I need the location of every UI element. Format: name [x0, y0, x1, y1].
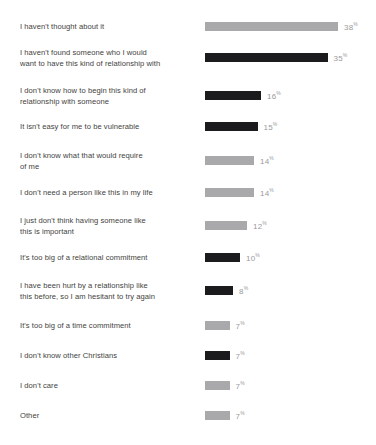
- bar-value-number: 12: [253, 222, 262, 231]
- bar-value-label: 16%: [267, 90, 281, 101]
- bar: [205, 22, 338, 31]
- bar-value-label: 7%: [236, 380, 245, 391]
- bar-track: 7%: [205, 373, 245, 399]
- bar-value-label: 14%: [260, 187, 274, 198]
- chart-bar-row: It's too big of a relational commitment1…: [0, 245, 376, 271]
- bar: [205, 351, 230, 360]
- bar: [205, 221, 247, 230]
- percent-sign: %: [343, 52, 348, 58]
- bar: [205, 156, 254, 165]
- chart-bar-row: I don't know what that would require of …: [0, 148, 376, 174]
- bar-value-label: 10%: [246, 252, 260, 263]
- bar-value-number: 10: [246, 254, 255, 263]
- bar-category-label: I haven't found someone who I would want…: [20, 46, 198, 68]
- bar-value-label: 38%: [344, 21, 358, 32]
- chart-bar-row: I just don't think having someone like t…: [0, 213, 376, 239]
- percent-sign: %: [273, 121, 278, 127]
- bar-category-label: It isn't easy for me to be vulnerable: [20, 121, 198, 132]
- bar-value-label: 14%: [260, 155, 274, 166]
- percent-sign: %: [240, 350, 245, 356]
- bar-track: 16%: [205, 83, 281, 109]
- bar-category-label: I don't care: [20, 380, 198, 391]
- chart-bar-row: It's too big of a time commitment7%: [0, 313, 376, 339]
- bar-value-label: 35%: [334, 52, 348, 63]
- bar: [205, 253, 240, 262]
- chart-bar-row: I don't know other Christians7%: [0, 343, 376, 369]
- bar-category-label: It's too big of a relational commitment: [20, 252, 198, 263]
- bar-category-label: I don't need a person like this in my li…: [20, 187, 198, 198]
- bar-chart: I haven't thought about it38%I haven't f…: [0, 0, 376, 445]
- bar-value-label: 7%: [236, 410, 245, 421]
- bar-value-label: 7%: [236, 350, 245, 361]
- bar-value-number: 14: [260, 157, 269, 166]
- bar-value-label: 8%: [239, 285, 248, 296]
- bar-value-label: 7%: [236, 320, 245, 331]
- bar: [205, 91, 261, 100]
- bar-category-label: I don't know how to begin this kind of r…: [20, 84, 198, 106]
- bar-category-label: I just don't think having someone like t…: [20, 214, 198, 236]
- chart-bar-row: Other7%: [0, 403, 376, 429]
- bar-track: 35%: [205, 45, 347, 71]
- percent-sign: %: [244, 285, 249, 291]
- percent-sign: %: [353, 21, 358, 27]
- chart-bar-row: I don't care7%: [0, 373, 376, 399]
- bar-track: 7%: [205, 313, 245, 339]
- percent-sign: %: [240, 320, 245, 326]
- bar-value-label: 12%: [253, 220, 267, 231]
- percent-sign: %: [276, 90, 281, 96]
- bar: [205, 122, 258, 131]
- bar-value-label: 15%: [264, 121, 278, 132]
- bar-value-number: 16: [267, 92, 276, 101]
- bar-value-number: 35: [334, 54, 343, 63]
- chart-bar-row: I haven't thought about it38%: [0, 14, 376, 40]
- bar-category-label: I don't know other Christians: [20, 350, 198, 361]
- bar-track: 7%: [205, 343, 245, 369]
- bar: [205, 381, 230, 390]
- bar-track: 8%: [205, 278, 248, 304]
- bar-track: 14%: [205, 148, 274, 174]
- bar-value-number: 14: [260, 189, 269, 198]
- bar-track: 7%: [205, 403, 245, 429]
- bar-category-label: It's too big of a time commitment: [20, 320, 198, 331]
- bar-track: 15%: [205, 114, 277, 140]
- percent-sign: %: [269, 187, 274, 193]
- bar-value-number: 38: [344, 23, 353, 32]
- bar-track: 38%: [205, 14, 358, 40]
- bar: [205, 188, 254, 197]
- bar-value-number: 15: [264, 123, 273, 132]
- bar-category-label: I haven't thought about it: [20, 21, 198, 32]
- bar-category-label: I have been hurt by a relationship like …: [20, 279, 198, 301]
- chart-bar-row: It isn't easy for me to be vulnerable15%: [0, 114, 376, 140]
- chart-bar-row: I have been hurt by a relationship like …: [0, 278, 376, 304]
- bar-category-label: I don't know what that would require of …: [20, 149, 198, 171]
- bar-track: 12%: [205, 213, 267, 239]
- chart-bar-row: I don't know how to begin this kind of r…: [0, 83, 376, 109]
- chart-bar-row: I haven't found someone who I would want…: [0, 45, 376, 71]
- bar: [205, 286, 233, 295]
- percent-sign: %: [255, 252, 260, 258]
- bar: [205, 411, 230, 420]
- percent-sign: %: [269, 155, 274, 161]
- percent-sign: %: [240, 410, 245, 416]
- percent-sign: %: [262, 220, 267, 226]
- bar-track: 14%: [205, 180, 274, 206]
- chart-bar-row: I don't need a person like this in my li…: [0, 180, 376, 206]
- percent-sign: %: [240, 380, 245, 386]
- bar-track: 10%: [205, 245, 260, 271]
- bar: [205, 53, 328, 62]
- bar-category-label: Other: [20, 410, 198, 421]
- bar: [205, 321, 230, 330]
